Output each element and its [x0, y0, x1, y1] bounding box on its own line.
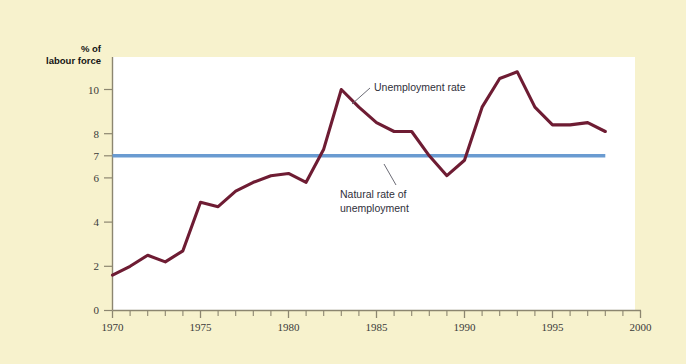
y-tick-label-10: 10 [88, 84, 100, 96]
y-axis-title-line1: % of [81, 43, 102, 54]
y-tick-label-0: 0 [94, 304, 100, 316]
y-tick-label-8: 8 [94, 128, 100, 140]
y-tick-label-7: 7 [94, 150, 100, 162]
y-axis-title-line2: labour force [46, 55, 101, 66]
y-tick-label-2: 2 [94, 260, 100, 272]
x-tick-label-1980: 1980 [278, 321, 301, 333]
natural-rate-annotation-line1: Natural rate of [340, 188, 407, 200]
x-tick-label-1985: 1985 [366, 321, 389, 333]
unemployment-chart: 0 2 4 6 7 8 10 % of labour force [0, 0, 686, 364]
y-tick-label-4: 4 [94, 216, 100, 228]
x-tick-label-1970: 1970 [102, 321, 125, 333]
x-tick-label-1990: 1990 [454, 321, 477, 333]
plot-panel-background [112, 57, 635, 311]
y-tick-label-6: 6 [94, 172, 100, 184]
unemployment-rate-annotation: Unemployment rate [374, 81, 466, 93]
natural-rate-annotation-line2: unemployment [340, 202, 409, 214]
x-tick-label-1995: 1995 [542, 321, 565, 333]
chart-figure: 0 2 4 6 7 8 10 % of labour force [0, 0, 686, 364]
x-tick-label-2000: 2000 [630, 321, 653, 333]
x-tick-label-1975: 1975 [190, 321, 213, 333]
